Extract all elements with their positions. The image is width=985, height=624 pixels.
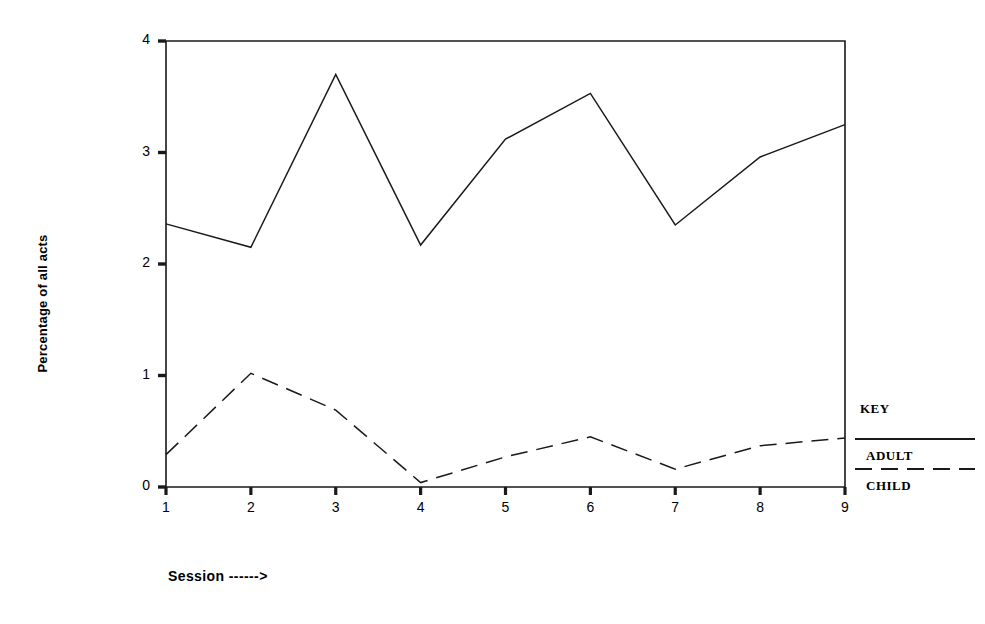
- y-axis-label: Percentage of all acts: [35, 204, 50, 404]
- x-axis-tick-label: 8: [750, 499, 770, 515]
- line-chart-plot-area: [0, 0, 985, 624]
- y-axis-tick-label: 3: [128, 143, 150, 159]
- x-axis-tick-label: 7: [665, 499, 685, 515]
- y-axis-tick-label: 0: [128, 477, 150, 493]
- y-axis-tick-label: 1: [128, 366, 150, 382]
- plot-frame: [166, 41, 845, 487]
- series-line-child: [166, 373, 845, 482]
- x-axis-label: Session ------>: [168, 568, 268, 584]
- legend-title: KEY: [860, 401, 890, 417]
- x-axis-tick-label: 6: [580, 499, 600, 515]
- x-axis-tick-label: 4: [411, 499, 431, 515]
- y-axis-tick-label: 2: [128, 254, 150, 270]
- legend-label-adult: ADULT: [866, 448, 913, 464]
- chart-figure: Percentage of all acts Session ------> K…: [0, 0, 985, 624]
- series-line-adult: [166, 74, 845, 247]
- x-axis-tick-label: 1: [156, 499, 176, 515]
- y-axis-tick-label: 4: [128, 31, 150, 47]
- legend-label-child: CHILD: [866, 478, 911, 494]
- x-axis-tick-label: 2: [241, 499, 261, 515]
- x-axis-tick-label: 3: [326, 499, 346, 515]
- x-axis-tick-label: 9: [835, 499, 855, 515]
- x-axis-tick-label: 5: [496, 499, 516, 515]
